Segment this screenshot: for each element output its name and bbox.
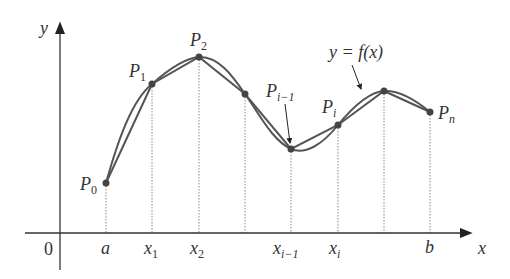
point-p2 (196, 54, 203, 61)
label-p2: P2 (189, 30, 207, 53)
tick-xi-1: xi−1 (272, 238, 298, 261)
label-p1: P1 (128, 61, 146, 84)
point-pn (427, 109, 434, 116)
tick-x1: x1 (143, 238, 158, 261)
point-p0 (103, 180, 110, 187)
point-pi (335, 122, 342, 129)
point-pi-1 (288, 146, 295, 153)
origin-label: 0 (44, 239, 53, 259)
point-p1 (149, 81, 156, 88)
curve-label: y = f(x) (327, 42, 383, 63)
tick-a: a (101, 238, 110, 258)
tick-x2: x2 (189, 238, 204, 261)
label-pn: Pn (437, 103, 455, 126)
arrow-curve-label (352, 65, 361, 89)
y-axis-label: y (38, 18, 48, 38)
polygonal-approximation-diagram: y x 0 a x1 x2 xi−1 xi b P0 P1 P2 Pi−1 Pi… (0, 0, 510, 279)
x-axis-label: x (477, 238, 486, 258)
tick-xi: xi (328, 238, 340, 261)
label-p0: P0 (79, 174, 97, 197)
polygonal-path (106, 57, 430, 183)
point-p3 (242, 91, 249, 98)
arrow-pi-1 (285, 104, 290, 143)
label-pi: Pi (321, 97, 336, 120)
tick-b: b (425, 237, 434, 257)
label-pi-1: Pi−1 (265, 81, 294, 104)
point-p6 (381, 88, 388, 95)
